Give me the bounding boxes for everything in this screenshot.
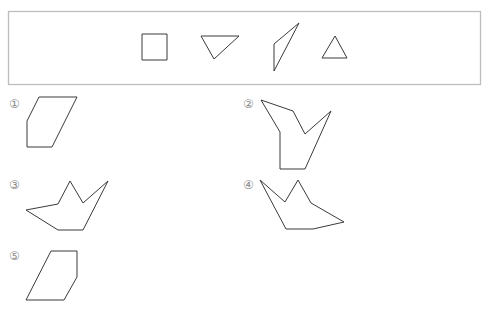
option-5-label: ⑤ [9,249,20,263]
option-1-shape[interactable] [27,97,77,147]
option-4-shape[interactable] [260,180,344,229]
option-3[interactable]: ③ [9,178,108,230]
option-2[interactable]: ② [243,97,331,169]
option-1-label: ① [9,97,20,111]
option-5[interactable]: ⑤ [9,249,77,300]
option-4-label: ④ [243,178,254,192]
option-3-shape[interactable] [26,181,108,230]
option-4[interactable]: ④ [243,178,344,229]
reference-square [142,34,167,60]
option-5-shape[interactable] [26,251,77,300]
option-2-label: ② [243,97,254,111]
reference-pieces [142,23,347,71]
option-2-shape[interactable] [261,100,331,169]
puzzle-diagram: ① ② ③ ④ ⑤ [0,0,489,312]
option-1[interactable]: ① [9,97,77,147]
option-3-label: ③ [9,178,20,192]
reference-equilateral-triangle [322,36,347,58]
reference-pieces-frame [9,12,481,85]
reference-thin-triangle [274,23,299,71]
reference-inverted-triangle [201,36,239,59]
